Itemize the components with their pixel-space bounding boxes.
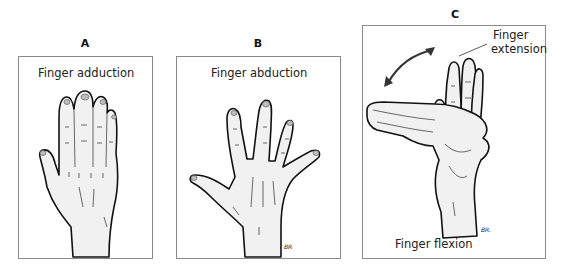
panel-b: Finger abduction BR [176, 56, 341, 259]
panel-c-caption: Finger flexion [395, 237, 472, 251]
hand-flexion-extension-illustration [363, 26, 547, 260]
artist-signature: BR [284, 243, 292, 250]
panel-c: Finger extension BR. Finger flexion [362, 25, 546, 259]
panel-b-letter: B [248, 37, 268, 50]
panel-a: Finger adduction [18, 56, 153, 259]
panel-c-letter: C [445, 8, 465, 21]
artist-signature: BR. [481, 226, 491, 233]
panel-a-letter: A [75, 37, 95, 50]
hand-adduction-illustration [19, 57, 154, 260]
hand-abduction-illustration [177, 57, 342, 260]
